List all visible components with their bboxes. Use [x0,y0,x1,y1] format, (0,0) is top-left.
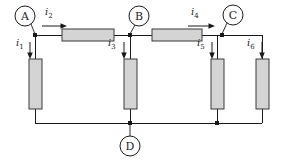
current-label-i6: i6 [247,38,255,48]
current-label-i1: i1 [16,38,24,48]
node-label-b: B [129,6,149,26]
node-label-a: A [15,6,35,26]
resistor-b-c [152,29,202,41]
current-arrow-i6 [259,42,265,59]
current-label-i5: i5 [197,38,205,48]
current-arrow-i3 [121,42,127,59]
current-arrow-i5 [209,42,215,59]
current-label-i2: i2 [45,7,53,17]
node-label-d: D [120,136,140,156]
current-arrow-i1 [27,42,33,59]
current-label-i3: i3 [108,38,116,48]
current-label-i4: i4 [191,7,199,17]
current-arrow-i2 [42,23,67,29]
resistor-b-d [124,59,137,109]
resistor-right-branch [256,59,269,109]
leader-line-a [31,24,35,34]
leader-line-b [130,25,135,34]
current-arrow-i4 [188,23,215,29]
resistor-group [29,29,269,109]
circuit-diagram: A B C D i1 i2 i3 i4 i5 i6 [0,0,285,161]
resistor-a-b [62,29,114,41]
junction-dot-bottom-c [215,121,219,125]
resistor-c-d [211,59,224,109]
node-letter-a: A [20,10,30,23]
resistor-a-d [29,59,42,109]
leader-line-c [222,23,227,34]
circuit-canvas: A B C D [0,0,285,161]
node-letter-c: C [229,9,237,22]
node-letter-b: B [135,10,143,23]
node-letter-d: D [126,140,135,153]
node-label-c: C [223,5,243,25]
wire-network [35,35,262,123]
